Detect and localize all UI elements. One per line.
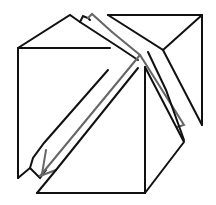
top-right-triangle bbox=[108, 15, 202, 125]
figure-canvas bbox=[0, 0, 216, 205]
bottom-prism bbox=[37, 67, 184, 193]
geometric-drawing bbox=[0, 0, 216, 205]
left-box bbox=[18, 15, 110, 178]
diagonal-strips bbox=[18, 22, 184, 178]
top-fold-tabs bbox=[80, 14, 112, 32]
